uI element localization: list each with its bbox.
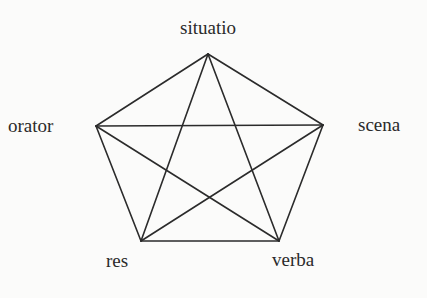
node-label-situatio: situatio: [180, 17, 236, 38]
edge-orator-scena: [96, 125, 323, 126]
edge-situatio-verba: [208, 54, 279, 241]
edge-situatio-res: [141, 54, 208, 241]
edge-orator-res: [96, 126, 141, 241]
edge-scena-verba: [279, 125, 323, 241]
diagram-canvas: situatio orator scena res verba: [0, 0, 427, 298]
edge-situatio-scena: [208, 54, 323, 125]
node-label-verba: verba: [272, 249, 315, 270]
edge-scena-res: [141, 125, 323, 241]
node-label-scena: scena: [358, 114, 401, 135]
edge-orator-verba: [96, 126, 279, 241]
pentagram-diagram: situatio orator scena res verba: [0, 0, 427, 298]
node-label-res: res: [106, 250, 128, 271]
edges-group: [96, 54, 323, 241]
labels-group: situatio orator scena res verba: [8, 17, 401, 271]
edge-situatio-orator: [96, 54, 208, 126]
node-label-orator: orator: [8, 115, 54, 136]
